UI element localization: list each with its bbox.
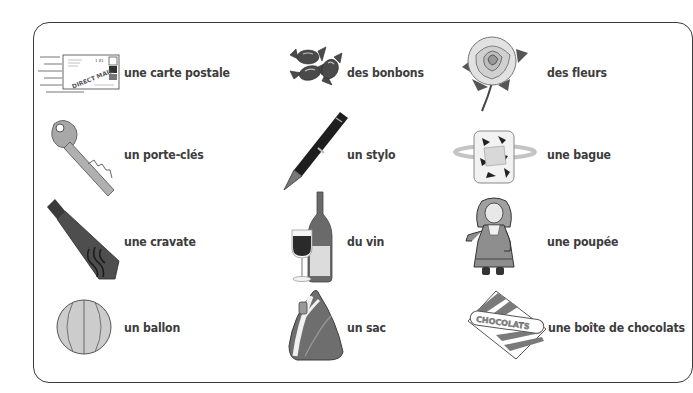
vocab-label: un sac — [347, 322, 386, 335]
necktie-icon — [45, 199, 121, 281]
vocab-label: une bague — [547, 149, 611, 162]
vocab-label: des fleurs — [547, 67, 607, 80]
chocolate-box-icon: CHOCOLATS — [466, 289, 548, 361]
vocab-label: un stylo — [347, 149, 395, 162]
backpack-icon — [285, 286, 345, 362]
vocab-label: des bonbons — [347, 67, 424, 80]
fountain-pen-icon — [280, 110, 350, 192]
vocab-label: une cravate — [124, 236, 196, 249]
vocab-label: une boîte de chocolats — [548, 322, 685, 335]
key-icon — [48, 118, 118, 198]
svg-text:1 81: 1 81 — [95, 58, 104, 63]
vocab-label: un porte-clés — [124, 149, 204, 162]
wine-icon — [290, 190, 340, 286]
candies-icon — [288, 45, 344, 87]
vocab-label: du vin — [347, 236, 384, 249]
vocab-label: une carte postale — [124, 67, 230, 80]
vocab-label: un ballon — [124, 322, 180, 335]
rose-icon — [458, 35, 530, 115]
postcard-icon: 1 81 DIRECT MAIL — [38, 50, 120, 98]
ring-icon — [452, 128, 538, 186]
ball-icon — [55, 297, 113, 357]
doll-icon — [464, 197, 526, 279]
vocab-label: une poupée — [547, 236, 618, 249]
